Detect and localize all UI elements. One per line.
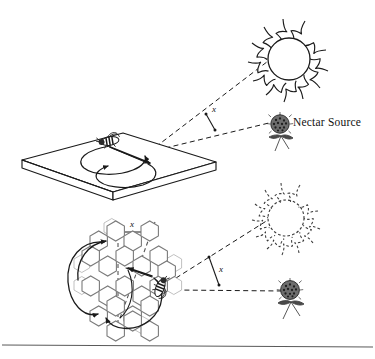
distance-label-bottom: x [130, 219, 134, 229]
footer-rule [2, 345, 373, 347]
nectar-flower-icon-top [267, 112, 293, 151]
angle-label-top: x [212, 104, 216, 114]
angle-label-bottom: x [219, 264, 223, 274]
dashed-sun-icon [252, 183, 320, 255]
bottom-sight-lines [176, 220, 282, 291]
sun-icon [248, 19, 328, 102]
top-angle-marker [205, 113, 217, 132]
nectar-source-label: Nectar Source [293, 116, 361, 128]
nectar-flower-icon-bottom [277, 278, 304, 319]
horizontal-platform-icon [22, 133, 216, 200]
diagram-artwork [0, 0, 375, 359]
figure-canvas: x Nectar Source x x [0, 0, 375, 359]
